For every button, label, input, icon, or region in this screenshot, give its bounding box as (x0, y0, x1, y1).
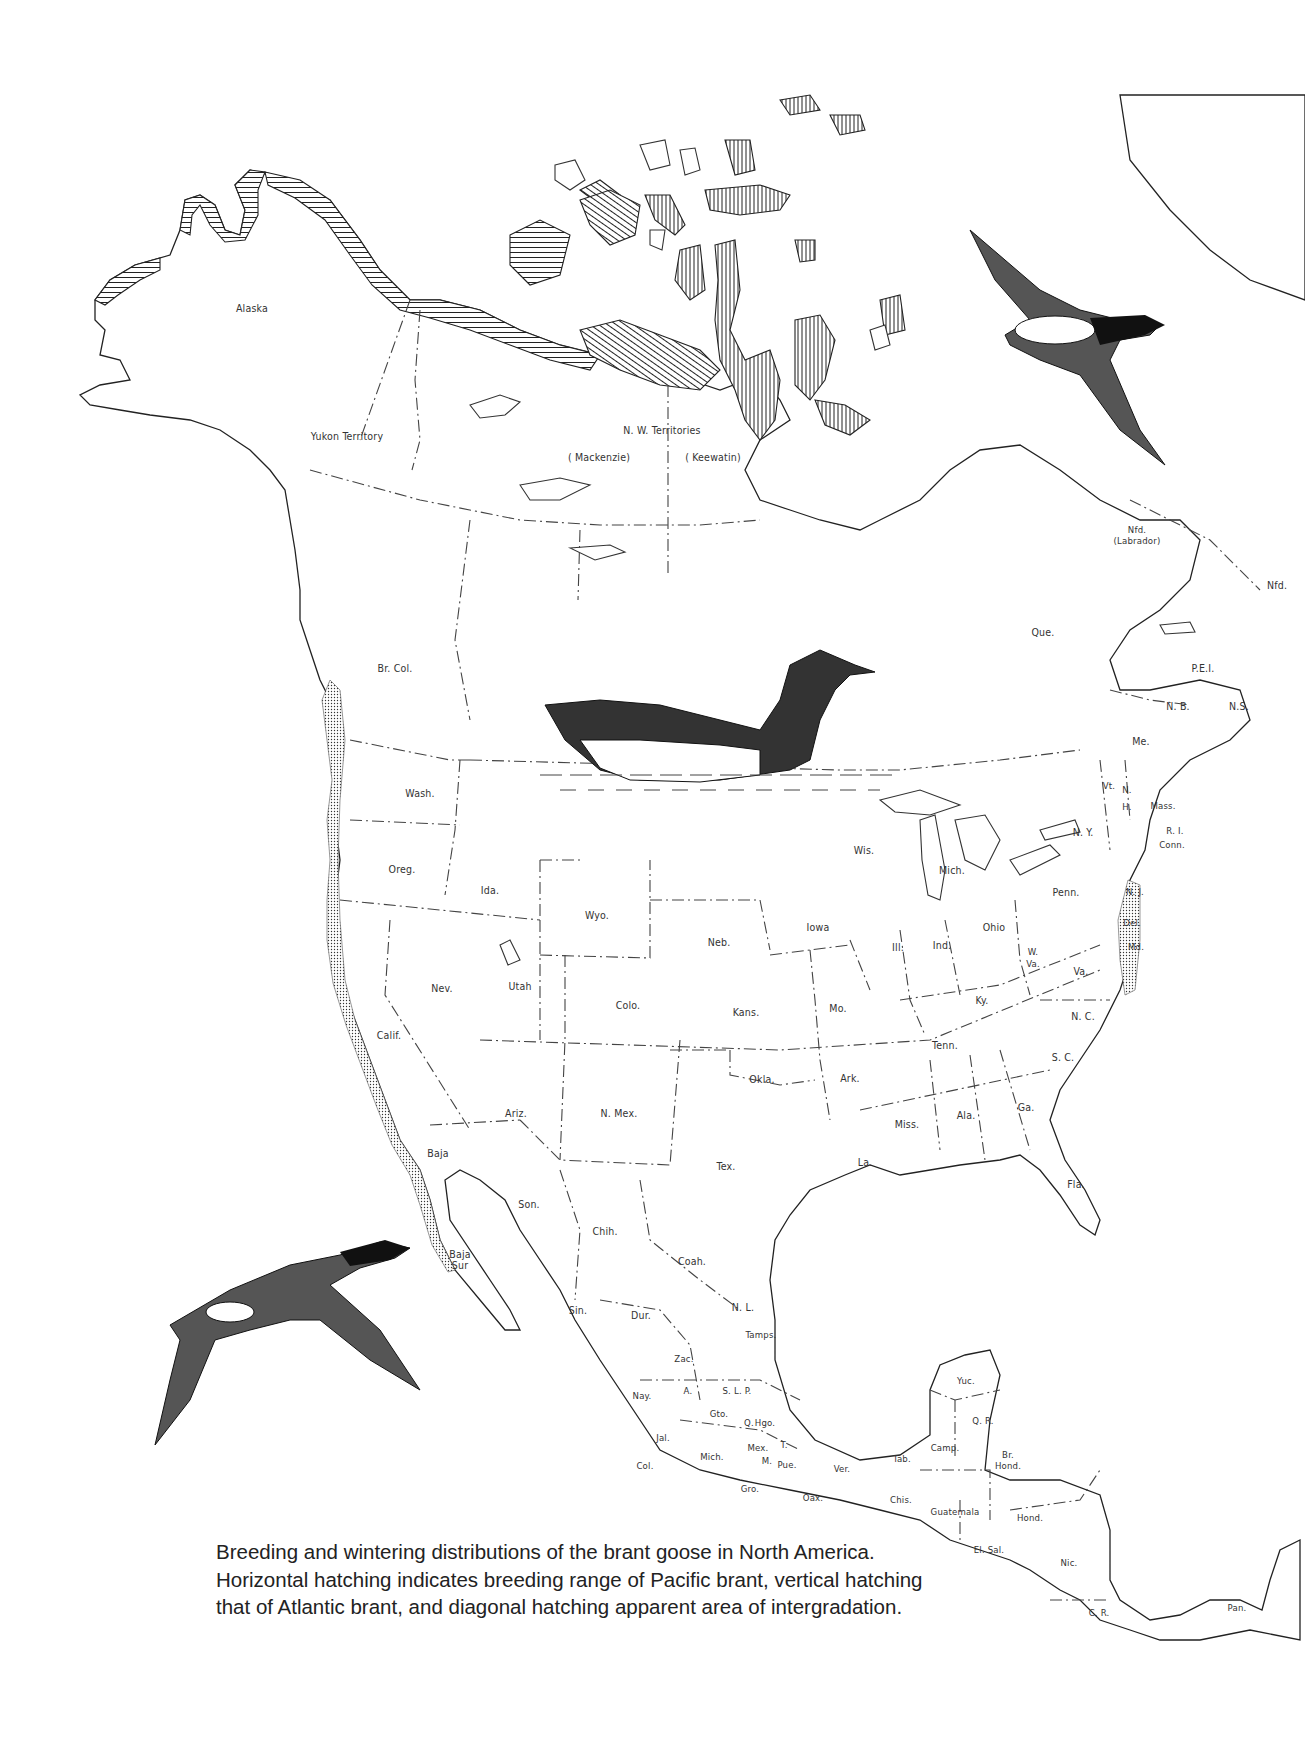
state-label: Ind. (933, 939, 952, 951)
region-label: Chih. (592, 1225, 617, 1237)
region-label: T. (780, 1439, 787, 1450)
state-label: Me. (1132, 735, 1150, 747)
region-label: Guatemala (931, 1506, 980, 1517)
region-label: Nay. (633, 1390, 652, 1401)
state-label: H. (1122, 801, 1131, 812)
state-label: Conn. (1159, 839, 1185, 850)
state-label: Mo. (829, 1002, 846, 1014)
region-label: Oax. (803, 1492, 824, 1503)
region-label: Camp. (931, 1442, 960, 1453)
region-label: Tab. (893, 1453, 911, 1464)
state-label: Ill. (892, 941, 904, 953)
state-label: R. I. (1166, 825, 1183, 836)
region-label: A. (684, 1385, 693, 1396)
region-label: Alaska (236, 302, 268, 314)
state-label: Neb. (708, 936, 731, 948)
north-america-map (0, 0, 1305, 1759)
region-label: S. L. P. (722, 1385, 751, 1396)
region-label: ( Mackenzie) (568, 451, 630, 463)
state-label: Ohio (983, 921, 1006, 933)
region-label: Chis. (890, 1494, 912, 1505)
state-label: N. J. (1126, 886, 1144, 897)
region-label: Yuc. (957, 1375, 975, 1386)
state-label: Ida. (481, 884, 499, 896)
region-label: Nfd. (Labrador) (1107, 524, 1167, 546)
state-label: N. C. (1071, 1010, 1095, 1022)
state-label: N. Y. (1073, 826, 1094, 838)
region-label: Ver. (834, 1463, 851, 1474)
figure-caption: Breeding and wintering distributions of … (216, 1538, 936, 1621)
region-label: Col. (636, 1460, 653, 1471)
region-label: Hgo. (755, 1417, 775, 1428)
state-label: Wyo. (585, 909, 609, 921)
state-label: Ark. (840, 1072, 860, 1084)
region-label: C. R. (1089, 1607, 1110, 1618)
region-label: Pan. (1228, 1602, 1247, 1613)
state-label: Wis. (854, 844, 874, 856)
region-label: P.E.I. (1191, 662, 1214, 674)
state-label: Oreg. (389, 863, 416, 875)
region-label: ( Keewatin) (685, 451, 741, 463)
state-label: Ky. (975, 994, 988, 1006)
region-label: M. (762, 1455, 773, 1466)
state-label: Utah (508, 980, 531, 992)
region-label: Coah. (678, 1255, 706, 1267)
region-label: Dur. (631, 1309, 651, 1321)
region-label: Q. R. (972, 1415, 993, 1426)
greenland-coast (1120, 95, 1305, 300)
region-label: Br. Hond. (991, 1449, 1025, 1471)
region-label: El. Sal. (974, 1544, 1005, 1555)
state-label: Calif. (377, 1029, 401, 1041)
state-label: Va. (1073, 965, 1088, 977)
state-label: Md. (1128, 941, 1144, 952)
state-label: Miss. (895, 1118, 920, 1130)
region-label: Q. (744, 1417, 754, 1428)
region-label: Jal. (656, 1432, 670, 1443)
state-label: Wash. (405, 787, 434, 799)
region-label: Mex. (747, 1442, 768, 1453)
state-label: Nev. (431, 982, 452, 994)
state-label: Tex. (716, 1160, 735, 1172)
state-label: La. (858, 1156, 873, 1168)
state-label: Fla. (1067, 1178, 1085, 1190)
region-label: Gro. (741, 1483, 760, 1494)
region-label: Nic. (1061, 1557, 1078, 1568)
state-label: Iowa (807, 921, 830, 933)
state-label: Vt. (1103, 780, 1116, 791)
state-label: N. Mex. (601, 1107, 638, 1119)
state-label: S. C. (1052, 1051, 1075, 1063)
state-label: Mich. (939, 864, 965, 876)
brant-flying-west-illustration (155, 1240, 420, 1445)
state-label: Ala. (957, 1109, 976, 1121)
state-label: Ariz. (505, 1107, 527, 1119)
region-label: N. W. Territories (623, 424, 700, 436)
region-label: Sin. (569, 1304, 587, 1316)
region-label: Baja (427, 1147, 448, 1159)
state-label: Ga. (1018, 1101, 1035, 1113)
state-label: Okla. (749, 1073, 774, 1085)
region-label: Mich. (700, 1451, 724, 1462)
region-label: Son. (518, 1198, 540, 1210)
region-label: Tamps. (745, 1329, 776, 1340)
region-label: Hond. (1017, 1512, 1043, 1523)
region-label: Zac. (674, 1353, 693, 1364)
region-label: Yukon Territory (311, 430, 383, 442)
region-label: Que. (1031, 626, 1054, 638)
state-label: Tenn. (932, 1039, 958, 1051)
region-label: Pue. (777, 1459, 796, 1470)
region-label: N. L. (732, 1301, 754, 1313)
state-label: W. Va. (1021, 946, 1045, 970)
state-label: Kans. (733, 1006, 760, 1018)
state-label: N. (1122, 784, 1132, 795)
state-label: Colo. (616, 999, 641, 1011)
region-label: Baja Sur (446, 1249, 474, 1271)
brant-flying-northeast-illustration (970, 230, 1165, 465)
region-label: Nfd. (1267, 579, 1287, 591)
region-label: Gto. (710, 1408, 729, 1419)
state-label: Mass. (1150, 800, 1175, 811)
region-label: Br. Col. (378, 662, 413, 674)
region-label: N. B. (1166, 700, 1190, 712)
state-label: Penn. (1052, 886, 1079, 898)
state-label: Del. (1123, 917, 1141, 928)
region-label: N.S. (1229, 700, 1249, 712)
